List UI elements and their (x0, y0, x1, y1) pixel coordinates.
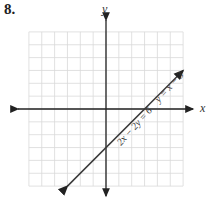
coordinate-graph: x y y = x − 3 2x − 2y = 6 (0, 0, 212, 201)
x-axis-label: x (199, 101, 206, 115)
y-axis-label: y (101, 2, 108, 16)
equation-label-1: y = x − 3 (152, 69, 186, 105)
equation-label-2: 2x − 2y = 6 (114, 105, 154, 148)
